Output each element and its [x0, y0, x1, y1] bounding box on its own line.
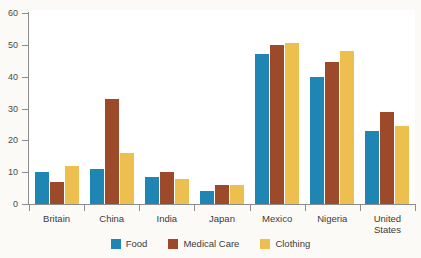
- bar: [285, 43, 299, 204]
- bar-group: [29, 10, 84, 204]
- legend-item[interactable]: Clothing: [260, 239, 310, 249]
- legend-swatch-icon: [168, 239, 178, 249]
- y-axis-tick-label: 30: [0, 105, 18, 114]
- y-axis-tick: [22, 172, 29, 173]
- x-axis-tick: [250, 205, 251, 211]
- chart-legend: FoodMedical CareClothing: [0, 239, 421, 249]
- bar-group: [250, 10, 305, 204]
- x-axis-category-label: UnitedStates: [355, 213, 419, 235]
- y-axis-tick-label: 60: [0, 9, 18, 18]
- legend-swatch-icon: [260, 239, 270, 249]
- y-axis-tick-label: 50: [0, 41, 18, 50]
- legend-item[interactable]: Medical Care: [168, 239, 239, 249]
- bar: [215, 185, 229, 204]
- bar: [380, 112, 394, 204]
- bar-chart: 6050403020100 BritainChinaIndiaJapanMexi…: [0, 0, 421, 258]
- y-axis-tick: [22, 109, 29, 110]
- bar: [35, 172, 49, 204]
- y-axis-tick: [22, 204, 29, 205]
- legend-label: Food: [126, 239, 148, 249]
- bar: [200, 191, 214, 204]
- y-axis-tick-label: 10: [0, 168, 18, 177]
- y-axis-tick: [22, 140, 29, 141]
- x-axis-tick: [415, 205, 416, 211]
- legend-label: Medical Care: [183, 239, 239, 249]
- y-axis-tick-label: 0: [0, 200, 18, 209]
- bar: [230, 185, 244, 204]
- bar: [120, 153, 134, 204]
- x-axis-tick: [194, 205, 195, 211]
- legend-swatch-icon: [111, 239, 121, 249]
- y-axis-tick-label: 40: [0, 73, 18, 82]
- y-axis-tick-label: 20: [0, 136, 18, 145]
- bar-group: [139, 10, 194, 204]
- x-axis-line: [28, 204, 416, 205]
- bar: [145, 177, 159, 204]
- y-axis-tick: [22, 13, 29, 14]
- bar: [175, 179, 189, 204]
- legend-item[interactable]: Food: [111, 239, 148, 249]
- bar: [50, 182, 64, 204]
- x-axis-tick: [84, 205, 85, 211]
- bar: [160, 172, 174, 204]
- bar: [255, 54, 269, 204]
- x-axis-tick: [360, 205, 361, 211]
- plot-area: [29, 10, 415, 204]
- bar: [90, 169, 104, 204]
- y-axis-tick: [22, 45, 29, 46]
- bar: [310, 77, 324, 204]
- x-axis-tick: [305, 205, 306, 211]
- bar: [340, 51, 354, 204]
- legend-label: Clothing: [275, 239, 310, 249]
- bar-group: [194, 10, 249, 204]
- x-axis-tick: [139, 205, 140, 211]
- x-axis-tick: [29, 205, 30, 211]
- y-axis-tick: [22, 77, 29, 78]
- bar: [365, 131, 379, 204]
- bar: [325, 62, 339, 204]
- bar: [395, 126, 409, 204]
- bar-group: [305, 10, 360, 204]
- bar: [270, 45, 284, 204]
- bar: [105, 99, 119, 204]
- bar-group: [360, 10, 415, 204]
- bar-group: [84, 10, 139, 204]
- bar: [65, 166, 79, 204]
